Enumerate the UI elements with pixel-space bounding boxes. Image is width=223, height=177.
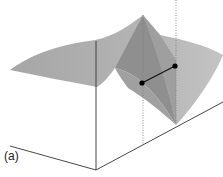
point-a — [139, 80, 144, 85]
figure-label: (a) — [4, 149, 19, 163]
y-axis — [96, 102, 223, 170]
x-axis — [10, 146, 96, 170]
point-b — [172, 63, 177, 68]
surface-diagram — [0, 0, 223, 177]
